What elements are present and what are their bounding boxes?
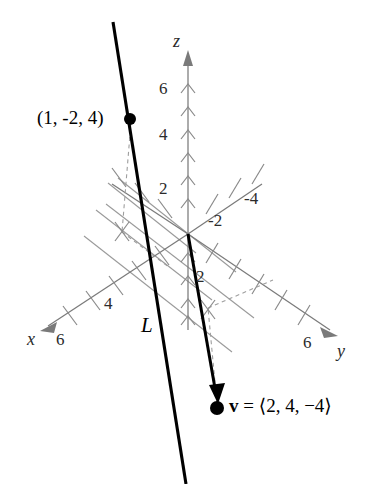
x-tick [109, 276, 123, 295]
point-label: (1, -2, 4) [37, 108, 103, 127]
x-axis-negative-line [112, 184, 188, 234]
vector-label-components: = ⟨2, 4, −4⟩ [239, 395, 332, 416]
z-tick-label-2: 2 [159, 180, 168, 197]
dash-vertical-from-point [122, 122, 131, 232]
x-axis-arrowhead [40, 322, 57, 333]
z-axis-label: z [173, 32, 180, 50]
y-neg-tick [229, 178, 241, 198]
grid-line [108, 183, 196, 253]
x-tick-label-4: 4 [104, 295, 113, 312]
vector-label-symbol: v [229, 395, 239, 416]
y-neg-tick [252, 164, 264, 184]
z-axis [181, 50, 195, 330]
line-L-label: L [141, 315, 153, 336]
x-axis-line [48, 234, 188, 326]
x-tick [155, 246, 169, 265]
figure-canvas: (1, -2, 4) z 6 4 2 -4 -2 2 6 y 4 6 x L v… [0, 0, 375, 484]
vector-endpoint-dot [210, 401, 224, 415]
vector-label: v = ⟨2, 4, −4⟩ [229, 396, 332, 415]
dash-vector-to-y-axis [208, 280, 273, 308]
grid-line [106, 204, 254, 318]
point-marker-dot [124, 113, 136, 125]
x-axis-label: x [27, 330, 35, 348]
y-tick-label-6: 6 [303, 334, 312, 351]
z-tick-label-6: 6 [159, 80, 168, 97]
z-axis-arrowhead [183, 50, 193, 66]
x-neg-tick [112, 168, 126, 187]
vector-v-arrowhead [209, 383, 225, 404]
y-axis-ticks [206, 243, 310, 325]
y-negative-tick-label-2: -2 [208, 212, 222, 229]
line-L [113, 22, 186, 484]
x-tick [132, 261, 146, 280]
x-tick-label-6: 6 [56, 331, 65, 348]
y-negative-tick-label-4: -4 [244, 190, 258, 207]
y-axis-label: y [337, 342, 345, 360]
y-tick-label-2: 2 [196, 268, 205, 285]
z-tick-label-4: 4 [159, 126, 168, 143]
